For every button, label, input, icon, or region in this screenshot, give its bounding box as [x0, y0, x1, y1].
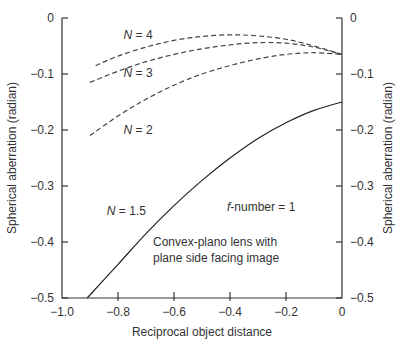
x-tick-label: −0.4: [218, 305, 242, 319]
y-axis-label-left: Spherical aberration (radian): [5, 82, 19, 234]
y-tick-label-left: −0.1: [30, 67, 54, 81]
y-tick-label-left: 0: [47, 11, 54, 25]
x-tick-label: −0.8: [106, 305, 130, 319]
x-tick-label: −0.2: [274, 305, 298, 319]
y-tick-label-left: −0.2: [30, 123, 54, 137]
y-tick-label-left: −0.4: [30, 235, 54, 249]
y-tick-label-left: −0.5: [30, 291, 54, 305]
lens-annotation-line1: Convex-plano lens with: [153, 235, 277, 249]
series-label: N = 2: [124, 123, 153, 137]
x-tick-label: −1.0: [50, 305, 74, 319]
labels: N = 4N = 3N = 2N = 1.5: [107, 28, 153, 218]
y-axis-label-right: Spherical aberration (radian): [381, 82, 395, 234]
series-label: N = 1.5: [107, 204, 146, 218]
x-axis-label: Reciprocal object distance: [132, 325, 272, 339]
y-tick-label-right: −0.5: [350, 291, 374, 305]
lens-annotation-line2: plane side facing image: [153, 251, 279, 265]
fnumber-annotation: f-number = 1: [227, 200, 296, 214]
series-label: N = 3: [124, 66, 153, 80]
y-tick-label-right: −0.1: [350, 67, 374, 81]
y-tick-label-left: −0.3: [30, 179, 54, 193]
x-tick-label: −0.6: [162, 305, 186, 319]
x-tick-label: 0: [339, 305, 346, 319]
y-tick-label-right: −0.4: [350, 235, 374, 249]
y-tick-label-right: 0: [350, 11, 357, 25]
series-label: N = 4: [124, 28, 153, 42]
y-tick-label-right: −0.2: [350, 123, 374, 137]
axes: 00−0.1−0.1−0.2−0.2−0.3−0.3−0.4−0.4−0.5−0…: [30, 11, 374, 319]
y-tick-label-right: −0.3: [350, 179, 374, 193]
spherical-aberration-chart: 00−0.1−0.1−0.2−0.2−0.3−0.3−0.4−0.4−0.5−0…: [0, 0, 404, 348]
